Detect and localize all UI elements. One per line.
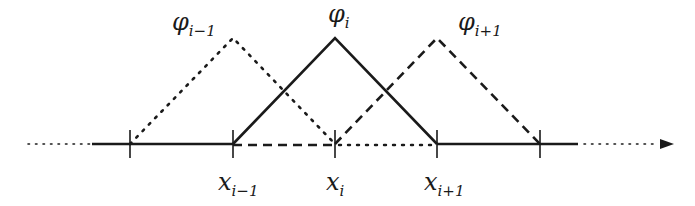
basis-function-dashed bbox=[335, 38, 540, 144]
x-axis bbox=[28, 139, 674, 149]
basis-functions bbox=[130, 38, 540, 144]
labels: φi−1 φi φi+1 xi−1 xi xi+1 bbox=[172, 0, 502, 200]
diagram-canvas: φi−1 φi φi+1 xi−1 xi xi+1 bbox=[0, 0, 695, 206]
label-phi-i-minus-1: φi−1 bbox=[172, 8, 216, 40]
label-phi-i: φi bbox=[328, 0, 350, 32]
label-phi-i-plus-1: φi+1 bbox=[458, 8, 502, 40]
hat-functions-diagram: φi−1 φi φi+1 xi−1 xi xi+1 bbox=[0, 0, 695, 206]
label-x-i-plus-1: xi+1 bbox=[424, 168, 464, 200]
label-x-i-minus-1: xi−1 bbox=[218, 168, 258, 200]
basis-function-solid bbox=[233, 38, 437, 144]
basis-function-dotted bbox=[130, 38, 335, 144]
label-x-i: xi bbox=[326, 168, 345, 200]
axis-arrow-icon bbox=[660, 139, 674, 149]
